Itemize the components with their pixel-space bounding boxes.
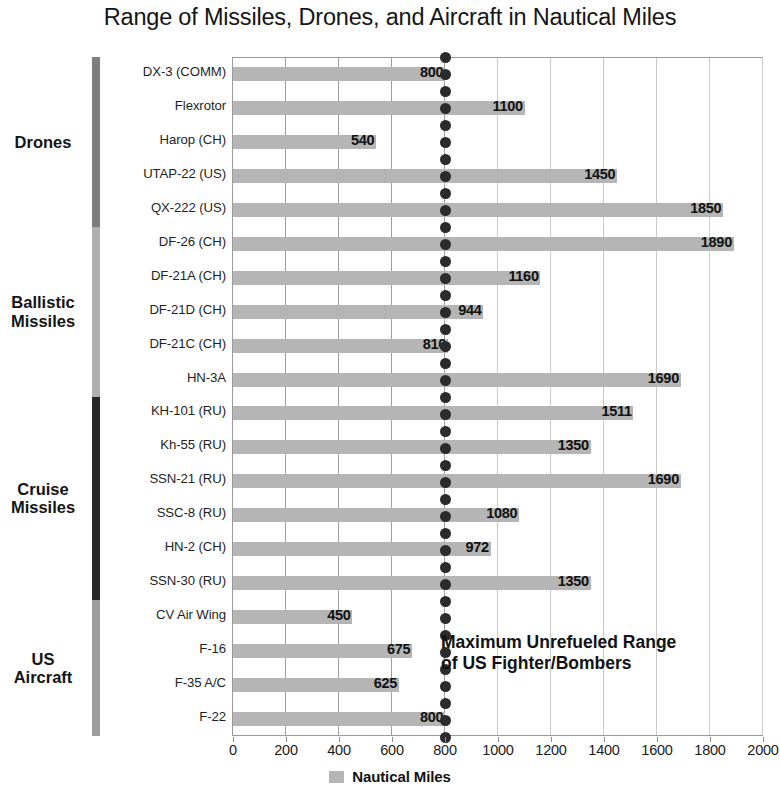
marker-dot <box>440 545 451 556</box>
bar-ssc-8-ru[interactable] <box>233 508 519 522</box>
category-label: HN-3A <box>187 370 226 385</box>
bar-value-label: 1100 <box>493 98 523 114</box>
marker-dot <box>440 239 451 250</box>
bar-dx-3-comm[interactable] <box>233 67 445 81</box>
marker-dot <box>440 715 451 726</box>
xtick-label-0: 0 <box>229 742 237 758</box>
bar-value-label: 972 <box>466 539 489 555</box>
marker-dot <box>440 409 451 420</box>
category-label: SSN-30 (RU) <box>149 573 226 588</box>
group-label-line: US <box>0 650 86 668</box>
bar-kh-55-ru[interactable] <box>233 440 591 454</box>
bar-f-16[interactable] <box>233 644 412 658</box>
category-label: SSN-21 (RU) <box>149 471 226 486</box>
category-label: UTAP-22 (US) <box>143 166 226 181</box>
bar-value-label: 1690 <box>648 471 679 487</box>
marker-dot <box>440 188 451 199</box>
marker-dot <box>440 324 451 335</box>
bar-df-21c-ch[interactable] <box>233 339 448 353</box>
bar-value-label: 1450 <box>584 166 615 182</box>
marker-dot <box>440 528 451 539</box>
group-label-line: Missiles <box>0 498 86 516</box>
marker-dot <box>440 205 451 216</box>
bar-ssn-21-ru[interactable] <box>233 474 681 488</box>
category-label: DF-21A (CH) <box>151 268 226 283</box>
marker-dot <box>440 290 451 301</box>
bar-df-21a-ch[interactable] <box>233 271 540 285</box>
marker-dot <box>440 562 451 573</box>
bar-value-label: 1511 <box>601 403 631 419</box>
category-label: CV Air Wing <box>156 607 226 622</box>
category-label: DX-3 (COMM) <box>143 64 226 79</box>
chart-root: Range of Missiles, Drones, and Aircraft … <box>0 0 780 800</box>
bar-qx-222-us[interactable] <box>233 203 723 217</box>
marker-dot <box>440 511 451 522</box>
marker-dot <box>440 103 451 114</box>
category-label: DF-21D (CH) <box>149 302 226 317</box>
max-range-annotation: Maximum Unrefueled Range of US Fighter/B… <box>441 632 676 674</box>
group-label-line: Ballistic <box>0 293 86 311</box>
bar-value-label: 1080 <box>486 505 517 521</box>
marker-dot <box>440 154 451 165</box>
marker-dot <box>440 358 451 369</box>
marker-dot <box>440 69 451 80</box>
category-label: Harop (CH) <box>160 132 226 147</box>
marker-dot <box>440 460 451 471</box>
marker-dot <box>440 477 451 488</box>
xtick-label-1600: 1600 <box>641 742 672 758</box>
xtick-label-600: 600 <box>380 742 404 758</box>
category-label: Flexrotor <box>175 98 226 113</box>
group-label-line: Cruise <box>0 480 86 498</box>
group-bar-us-aircraft <box>92 600 100 736</box>
group-label-ballistic-missiles: BallisticMissiles <box>0 293 86 330</box>
marker-dot <box>440 256 451 267</box>
bar-value-label: 1350 <box>558 573 589 589</box>
nautical-miles-swatch <box>329 771 344 783</box>
category-label: KH-101 (RU) <box>151 403 226 418</box>
xtick-label-800: 800 <box>433 742 457 758</box>
group-bar-drones <box>92 57 100 227</box>
marker-dot <box>440 392 451 403</box>
category-label: HN-2 (CH) <box>165 539 226 554</box>
marker-dot <box>440 120 451 131</box>
xtick-label-2000: 2000 <box>747 742 778 758</box>
bar-utap-22-us[interactable] <box>233 169 617 183</box>
marker-dot <box>440 341 451 352</box>
group-label-us-aircraft: USAircraft <box>0 650 86 687</box>
bar-value-label: 540 <box>351 132 374 148</box>
bar-hn-3a[interactable] <box>233 373 681 387</box>
group-label-drones: Drones <box>0 133 86 151</box>
category-label: DF-21C (CH) <box>149 336 226 351</box>
page-title: Range of Missiles, Drones, and Aircraft … <box>0 4 780 31</box>
bar-kh-101-ru[interactable] <box>233 406 633 420</box>
xtick-label-400: 400 <box>327 742 351 758</box>
marker-dot <box>440 426 451 437</box>
xtick-label-1000: 1000 <box>482 742 513 758</box>
bar-f-22[interactable] <box>233 712 445 726</box>
bar-df-26-ch[interactable] <box>233 237 734 251</box>
marker-dot <box>440 579 451 590</box>
bar-value-label: 450 <box>327 607 350 623</box>
xtick-label-1400: 1400 <box>588 742 619 758</box>
marker-dot <box>440 698 451 709</box>
bar-flexrotor[interactable] <box>233 101 525 115</box>
bar-value-label: 675 <box>387 641 410 657</box>
marker-dot <box>440 171 451 182</box>
marker-dot <box>440 613 451 624</box>
bar-value-label: 1690 <box>648 370 679 386</box>
xtick-label-200: 200 <box>274 742 298 758</box>
category-label: F-16 <box>199 641 226 656</box>
marker-dot <box>440 443 451 454</box>
marker-dot <box>440 681 451 692</box>
x-axis: 0200400600800100012001400160018002000 <box>0 737 780 761</box>
chart-legend: Nautical Miles <box>0 768 780 785</box>
marker-dot <box>440 596 451 607</box>
bar-value-label: 1850 <box>690 200 721 216</box>
group-label-line: Aircraft <box>0 668 86 686</box>
marker-dot <box>440 307 451 318</box>
marker-dot <box>440 222 451 233</box>
bar-hn-2-ch[interactable] <box>233 542 491 556</box>
category-label: SSC-8 (RU) <box>157 505 226 520</box>
marker-dot <box>440 494 451 505</box>
bar-ssn-30-ru[interactable] <box>233 576 591 590</box>
